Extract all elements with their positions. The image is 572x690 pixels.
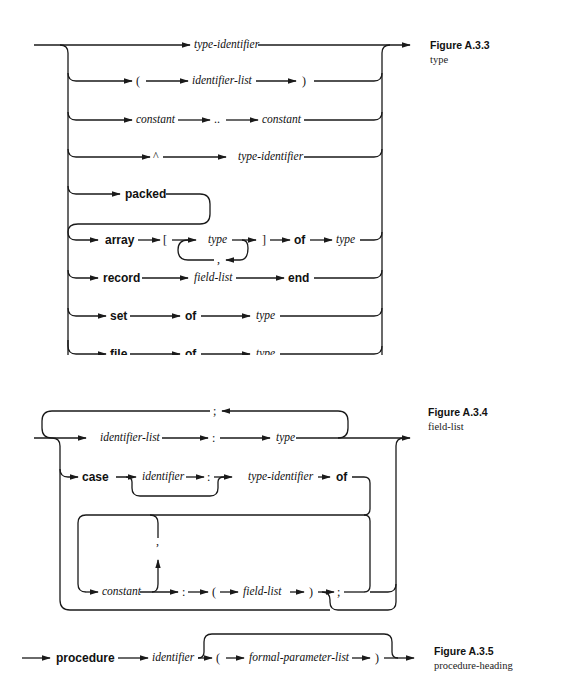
rbracket: ]: [262, 233, 266, 247]
lbracket: [: [163, 233, 167, 247]
figure-type-diagram: type-identifier ( identifier-list ) cons…: [34, 38, 410, 415]
comma-separator: ,: [217, 252, 220, 266]
row-type-identifier: type-identifier: [194, 38, 260, 51]
variant-semicolon: ;: [337, 585, 340, 599]
tag-identifier: identifier: [142, 470, 185, 483]
keyword-case-of: of: [336, 470, 348, 484]
constant-end: constant: [262, 113, 302, 125]
constant-separator-comma: ,: [156, 534, 159, 548]
figure-caption-title: Figure A.3.5: [434, 645, 494, 657]
variant-field-list: field-list: [243, 585, 282, 598]
keyword-record: record: [103, 271, 140, 285]
figure-caption-title: Figure A.3.4: [428, 406, 488, 418]
repeat-semicolon: ;: [213, 404, 216, 418]
lparen: (: [136, 74, 140, 88]
pointer-caret: ^: [153, 149, 159, 163]
variant-constant: constant: [102, 585, 142, 597]
keyword-set: set: [110, 309, 127, 323]
rparen: ): [302, 74, 306, 88]
keyword-end: end: [288, 271, 309, 285]
figure-caption-subtitle: procedure-heading: [434, 660, 513, 671]
keyword-case: case: [82, 470, 109, 484]
index-type: type: [208, 233, 227, 246]
keyword-procedure: procedure: [56, 651, 115, 665]
procedure-identifier: identifier: [152, 651, 195, 664]
fixed-identifier-list: identifier-list: [100, 431, 161, 444]
figure-caption-subtitle: field-list: [428, 421, 464, 432]
tag-type-identifier: type-identifier: [248, 470, 314, 483]
params-lparen: (: [216, 651, 220, 665]
keyword-packed: packed: [125, 187, 166, 201]
figure-field-list-diagram: ; identifier-list : type case identifier…: [34, 404, 410, 610]
formal-parameter-list: formal-parameter-list: [249, 651, 350, 664]
syntax-diagrams: type-identifier ( identifier-list ) cons…: [0, 0, 572, 690]
figure-procedure-heading-diagram: procedure identifier ( formal-parameter-…: [22, 634, 414, 665]
range-dots: ..: [214, 112, 220, 126]
keyword-of: of: [294, 233, 306, 247]
tag-colon: :: [207, 470, 210, 484]
constant-start: constant: [136, 113, 176, 125]
figure-caption-subtitle: type: [430, 54, 448, 65]
variant-colon: :: [182, 585, 185, 599]
fixed-type: type: [276, 431, 295, 444]
identifier-list: identifier-list: [192, 74, 253, 87]
keyword-set-of: of: [185, 309, 197, 323]
set-base-type: type: [256, 309, 275, 322]
keyword-array: array: [105, 233, 135, 247]
params-rparen: ): [375, 651, 379, 665]
variant-rparen: ): [309, 585, 313, 599]
pointer-type-identifier: type-identifier: [238, 150, 304, 163]
element-type: type: [336, 233, 355, 246]
colon: :: [212, 431, 215, 445]
record-field-list: field-list: [194, 271, 233, 284]
variant-lparen: (: [212, 585, 216, 599]
figure-caption-title: Figure A.3.3: [430, 39, 490, 51]
